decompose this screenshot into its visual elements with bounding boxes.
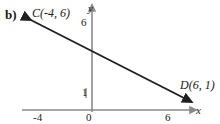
y-tick-label-6: 6 [81,17,87,28]
x-axis-label: x [196,105,201,116]
y-tick-label-1: 1 [82,87,88,98]
part-label: b) [5,8,17,21]
line-segment-cd [23,16,184,98]
graph-figure: b) C(-4, 6) D(6, 1) y x 6 1 0 -4 6 [0,0,220,124]
x-tick-label-neg4: -4 [33,112,42,123]
point-label-c: C(-4, 6) [32,7,70,19]
origin-label: 0 [86,112,92,123]
x-tick-label-6: 6 [165,112,171,123]
point-label-d: D(6, 1) [180,79,215,91]
y-axis-label: y [88,3,93,14]
